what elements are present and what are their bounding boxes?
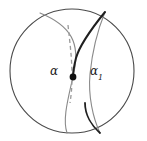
junction-point (70, 74, 77, 81)
figure-container: α α1 (0, 0, 147, 141)
boundary-circle (10, 9, 134, 133)
alpha-one-label-base: α (90, 64, 98, 78)
alpha-one-label-subscript: 1 (98, 73, 103, 82)
alpha-label: α (50, 65, 58, 77)
alpha-label-base: α (50, 64, 58, 78)
diagram-canvas (0, 0, 147, 141)
alpha-one-label: α1 (90, 65, 103, 80)
